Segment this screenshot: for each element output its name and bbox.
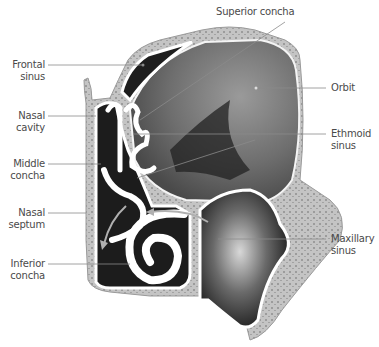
label-ethmoid-sinus-line2: sinus (331, 140, 371, 152)
label-maxillary-sinus-line1: Maxillary (331, 233, 374, 245)
label-nasal-septum-line1: Nasal (3, 207, 45, 219)
label-nasal-septum: Nasal septum (3, 207, 45, 231)
point-orbit (255, 87, 258, 90)
sinus-anatomy-diagram (0, 0, 379, 347)
label-ethmoid-sinus: Ethmoid sinus (331, 128, 371, 152)
point-frontal-sinus (142, 64, 145, 67)
label-middle-concha: Middle concha (3, 158, 45, 182)
label-nasal-cavity: Nasal cavity (3, 110, 45, 134)
label-maxillary-sinus: Maxillary sinus (331, 233, 374, 257)
label-orbit: Orbit (331, 82, 355, 94)
label-middle-concha-line2: concha (3, 170, 45, 182)
label-nasal-septum-line2: septum (3, 219, 45, 231)
label-superior-concha: Superior concha (216, 6, 294, 18)
label-maxillary-sinus-line2: sinus (331, 245, 374, 257)
label-superior-concha-text: Superior concha (216, 6, 294, 18)
label-inferior-concha-line1: Inferior (3, 258, 45, 270)
label-nasal-cavity-line2: cavity (3, 122, 45, 134)
label-inferior-concha: Inferior concha (3, 258, 45, 282)
label-frontal-sinus: Frontal sinus (3, 59, 45, 83)
label-ethmoid-sinus-line1: Ethmoid (331, 128, 371, 140)
label-inferior-concha-line2: concha (3, 270, 45, 282)
label-frontal-sinus-line2: sinus (3, 71, 45, 83)
label-middle-concha-line1: Middle (3, 158, 45, 170)
label-orbit-text: Orbit (331, 82, 355, 94)
label-frontal-sinus-line1: Frontal (3, 59, 45, 71)
label-nasal-cavity-line1: Nasal (3, 110, 45, 122)
